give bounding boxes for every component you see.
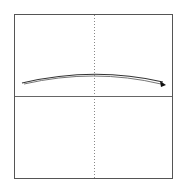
diagram-canvas: [0, 0, 179, 190]
